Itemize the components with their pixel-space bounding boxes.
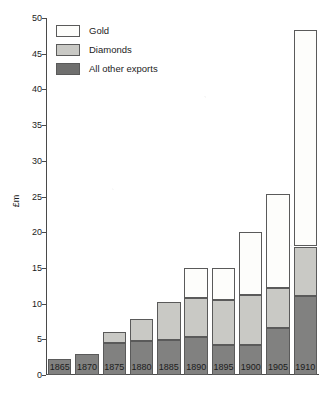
y-tick-label: 20 [18, 228, 42, 237]
bar-segment-diamonds [294, 247, 317, 297]
y-axis-label: £m [11, 181, 21, 221]
y-tick-label: 10 [18, 299, 42, 308]
legend-swatch-other-icon [56, 63, 80, 75]
y-tick-label: 5 [18, 335, 42, 344]
legend-label-other: All other exports [89, 63, 158, 74]
legend-item-gold: Gold [56, 22, 158, 39]
y-tick-label: 35 [18, 121, 42, 130]
legend-swatch-gold-icon [56, 25, 80, 37]
y-tick-mark [42, 18, 46, 19]
bar-1890 [184, 268, 207, 375]
bar-segment-diamonds [212, 300, 235, 345]
y-tick-mark [42, 54, 46, 55]
y-tick-mark [42, 375, 46, 376]
y-tick-mark [42, 197, 46, 198]
bar-segment-gold [294, 30, 317, 246]
y-tick-label: 50 [18, 14, 42, 23]
y-tick-mark [42, 89, 46, 90]
legend-item-diamonds: Diamonds [56, 41, 158, 58]
bar-segment-diamonds [130, 319, 153, 341]
bar-segment-gold [266, 194, 289, 288]
bar-segment-gold [239, 232, 262, 295]
bar-chart: £m 05101520253035404550 1865187018751880… [0, 0, 331, 403]
y-tick-mark [42, 268, 46, 269]
y-tick-mark [42, 339, 46, 340]
y-tick-label: 40 [18, 85, 42, 94]
y-tick-label: 15 [18, 263, 42, 272]
bar-segment-diamonds [239, 295, 262, 345]
legend-swatch-diamonds-icon [56, 44, 80, 56]
legend-item-other: All other exports [56, 60, 158, 77]
y-tick-mark [42, 161, 46, 162]
y-tick-label: 45 [18, 49, 42, 58]
y-tick-mark [42, 304, 46, 305]
y-tick-label: 30 [18, 156, 42, 165]
legend-label-gold: Gold [89, 25, 109, 36]
bar-1895 [212, 268, 235, 375]
bar-1905 [266, 194, 289, 375]
y-tick-mark [42, 125, 46, 126]
y-tick-label: 0 [18, 371, 42, 380]
bar-segment-diamonds [103, 332, 126, 343]
y-tick-mark [42, 232, 46, 233]
bar-segment-diamonds [184, 298, 207, 337]
bar-segment-diamonds [157, 302, 180, 340]
legend-label-diamonds: Diamonds [89, 44, 132, 55]
bar-segment-gold [212, 268, 235, 300]
bar-segment-diamonds [266, 288, 289, 328]
bar-segment-gold [184, 268, 207, 298]
x-tick-label: 1910 [285, 362, 325, 372]
legend: Gold Diamonds All other exports [56, 22, 158, 79]
bar-1910 [294, 30, 317, 375]
bar-1900 [239, 232, 262, 375]
y-tick-label: 25 [18, 192, 42, 201]
